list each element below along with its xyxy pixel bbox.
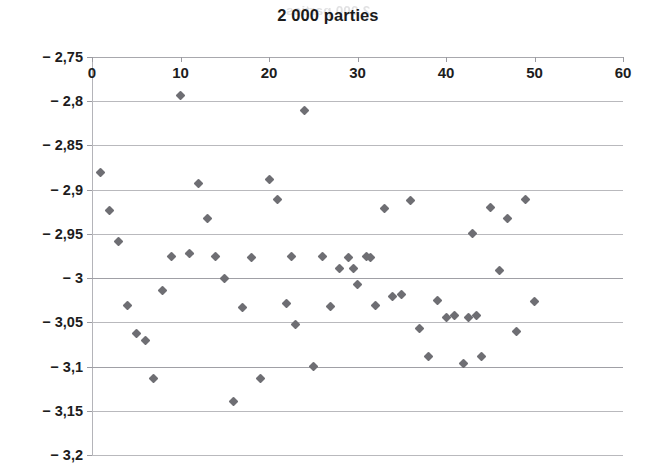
y-axis-tick-label: − 3	[62, 270, 83, 286]
x-axis-tick-label: 10	[172, 64, 189, 81]
x-axis-tick	[358, 57, 359, 62]
data-point	[264, 175, 274, 185]
x-axis-tick	[535, 57, 536, 62]
data-point	[317, 252, 327, 262]
y-axis-tick	[87, 322, 92, 323]
x-axis-tick-label: 30	[349, 64, 366, 81]
data-point	[344, 253, 354, 263]
data-point	[202, 214, 212, 224]
y-axis-tick-label: − 3,1	[50, 359, 83, 375]
data-point	[105, 205, 115, 215]
data-point	[353, 279, 363, 289]
y-axis-tick	[87, 411, 92, 412]
data-point	[308, 362, 318, 372]
x-axis-tick	[269, 57, 270, 62]
gridline	[92, 101, 623, 102]
gridline	[92, 411, 623, 412]
scatter-chart-figure: 2 000 parties 2 000 parties − 2,75− 2,8−…	[0, 0, 656, 471]
y-axis-tick	[87, 367, 92, 368]
plot-area: − 2,75− 2,8− 2,85− 2,9− 2,95− 3− 3,05− 3…	[92, 57, 623, 455]
data-point	[472, 310, 482, 320]
data-point	[282, 299, 292, 309]
y-axis-tick-label: − 3,15	[42, 403, 83, 419]
data-point	[494, 265, 504, 275]
data-point	[432, 295, 442, 305]
y-axis-tick-label: − 2,75	[42, 49, 83, 65]
x-axis-tick-label: 60	[615, 64, 632, 81]
y-axis-tick-label: − 2,8	[50, 93, 83, 109]
data-point	[176, 90, 186, 100]
data-point	[476, 352, 486, 362]
data-point	[184, 248, 194, 258]
gridline	[92, 322, 623, 323]
y-axis-tick	[87, 190, 92, 191]
data-point	[379, 203, 389, 213]
x-axis-tick-label: 20	[261, 64, 278, 81]
data-point	[468, 229, 478, 239]
data-point	[193, 179, 203, 189]
data-point	[503, 214, 513, 224]
data-point	[299, 106, 309, 116]
data-point	[229, 397, 239, 407]
data-point	[485, 202, 495, 212]
gridline	[92, 455, 623, 456]
y-axis-tick-label: − 3,2	[50, 447, 83, 463]
gridline	[92, 190, 623, 191]
data-point	[450, 310, 460, 320]
data-point	[406, 195, 416, 205]
data-point	[237, 302, 247, 312]
y-axis-tick-label: − 3,05	[42, 314, 83, 330]
data-point	[414, 324, 424, 334]
data-point	[397, 290, 407, 300]
x-axis-tick-label: 0	[88, 64, 96, 81]
data-point	[96, 168, 106, 178]
y-axis-tick-label: − 2,95	[42, 226, 83, 242]
data-point	[326, 301, 336, 311]
gridline	[92, 234, 623, 235]
data-point	[167, 252, 177, 262]
data-point	[512, 326, 522, 336]
data-point	[366, 253, 376, 263]
data-point	[530, 296, 540, 306]
chart-title: 2 000 parties	[0, 6, 656, 25]
data-point	[286, 252, 296, 262]
y-axis-tick	[87, 234, 92, 235]
y-axis-tick-label: − 2,85	[42, 137, 83, 153]
gridline	[92, 145, 623, 146]
x-axis-tick-label: 40	[438, 64, 455, 81]
data-point	[122, 301, 132, 311]
data-point	[246, 253, 256, 263]
data-point	[114, 237, 124, 247]
y-axis-tick	[87, 101, 92, 102]
gridline	[92, 367, 623, 368]
y-axis-tick	[87, 278, 92, 279]
x-axis-tick	[92, 57, 93, 62]
data-point	[158, 286, 168, 296]
data-point	[348, 263, 358, 273]
data-point	[131, 329, 141, 339]
y-axis-tick	[87, 455, 92, 456]
data-point	[220, 273, 230, 283]
data-point	[273, 194, 283, 204]
data-point	[211, 251, 221, 261]
data-point	[370, 301, 380, 311]
data-point	[521, 194, 531, 204]
data-point	[335, 263, 345, 273]
data-point	[441, 312, 451, 322]
x-axis-tick	[446, 57, 447, 62]
x-axis-tick	[623, 57, 624, 62]
data-point	[149, 374, 159, 384]
y-axis-tick-label: − 2,9	[50, 182, 83, 198]
x-axis-tick	[181, 57, 182, 62]
data-point	[255, 374, 265, 384]
y-axis-line	[92, 57, 93, 455]
data-point	[423, 352, 433, 362]
x-axis-tick-label: 50	[526, 64, 543, 81]
data-point	[140, 335, 150, 345]
y-axis-tick	[87, 145, 92, 146]
